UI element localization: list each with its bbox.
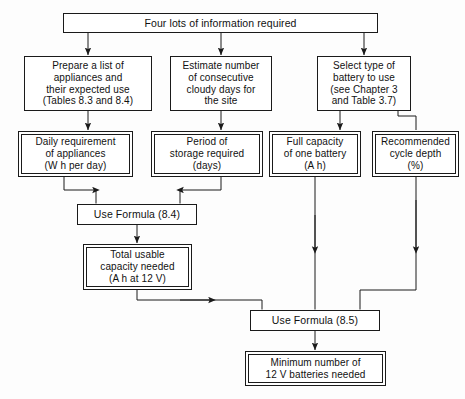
text-line: capacity needed (100, 261, 174, 273)
text-line: (%) (408, 160, 424, 172)
text-line: (A h) (304, 160, 326, 172)
text-line: Estimate number (174, 60, 268, 72)
text-line: 12 V batteries needed (266, 369, 366, 381)
node-result-minimum-batteries: Minimum number of 12 V batteries needed (245, 351, 386, 386)
flowchart-canvas: Four lots of information required Prepar… (0, 0, 465, 399)
node-formula-8-5: Use Formula (8.5) (250, 310, 380, 331)
text-line: (Tables 8.3 and 8.4) (28, 95, 148, 107)
node-select-battery-type: Select type of battery to use (see Chapt… (317, 56, 411, 111)
text-line: (see Chapter 3 (321, 84, 407, 96)
text-line: (days) (193, 160, 221, 172)
text-line: appliances and (28, 72, 148, 84)
text-line: cycle depth (390, 148, 442, 160)
node-full-capacity: Full capacity of one battery (A h) (269, 131, 361, 177)
text-line: Prepare a list of (28, 60, 148, 72)
text-line: and Table 3.7) (321, 95, 407, 107)
text-line: Full capacity (287, 136, 344, 148)
text-line: battery to use (321, 72, 407, 84)
text-line: of consecutive (174, 72, 268, 84)
text-line: of one battery (284, 148, 347, 160)
text-line: of appliances (45, 148, 105, 160)
node-total-usable-capacity: Total usable capacity needed (A h at 12 … (83, 244, 192, 290)
wire-cycledepth-run (360, 177, 416, 310)
node-recommended-cycle-depth: Recommended cycle depth (%) (372, 131, 459, 177)
node-daily-requirement: Daily requirement of appliances (W h per… (18, 131, 133, 177)
node-prepare-list: Prepare a list of appliances and their e… (24, 56, 152, 111)
text-line: Daily requirement (35, 136, 115, 148)
node-storage-period: Period of storage required (days) (151, 131, 263, 177)
node-formula-8-4: Use Formula (8.4) (77, 204, 197, 225)
node-header: Four lots of information required (63, 13, 378, 33)
wire-select-to-cycledepth (398, 111, 416, 131)
text-line: storage required (170, 148, 244, 160)
text-line: (A h at 12 V) (109, 273, 166, 285)
text-line: Total usable (110, 249, 165, 261)
wire-storage-elbow (180, 177, 221, 190)
wire-total-run (137, 290, 262, 300)
node-formula-8-4-label: Use Formula (8.4) (81, 208, 193, 220)
text-line: (W h per day) (45, 160, 107, 172)
text-line: Period of (187, 136, 228, 148)
node-formula-8-5-label: Use Formula (8.5) (254, 314, 376, 326)
text-line: cloudy days for (174, 84, 268, 96)
text-line: the site (174, 95, 268, 107)
text-line: Select type of (321, 60, 407, 72)
node-estimate-cloudy-days: Estimate number of consecutive cloudy da… (170, 56, 272, 111)
text-line: Recommended (381, 136, 450, 148)
text-line: Minimum number of (270, 357, 360, 369)
text-line: their expected use (28, 84, 148, 96)
node-header-label: Four lots of information required (67, 17, 374, 29)
wire-daily-elbow (64, 177, 96, 190)
